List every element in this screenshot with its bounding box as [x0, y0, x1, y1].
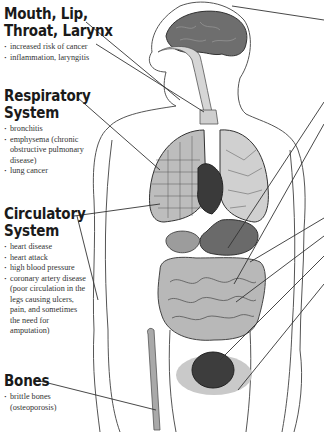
- stomach: [200, 220, 258, 256]
- section-bones: Bones brittle bones (osteoporosis): [4, 373, 84, 413]
- effect-item: brittle bones (osteoporosis): [4, 392, 84, 413]
- section-heading: Circulatory: [4, 206, 86, 223]
- effect-item: bronchitis: [4, 124, 88, 135]
- right-lung: [220, 130, 268, 222]
- section-respiratory: Respiratory System bronchitis emphysema …: [4, 88, 88, 177]
- effects-list: increased risk of cancer inflammation, l…: [4, 42, 116, 63]
- effects-list: bronchitis emphysema (chronic obstructiv…: [4, 124, 88, 177]
- effect-item: coronary artery disease (poor circulatio…: [4, 274, 86, 337]
- femur-bone: [147, 328, 160, 430]
- effect-item: heart attack: [4, 253, 86, 264]
- airway: [158, 46, 212, 112]
- section-heading: Respiratory: [4, 88, 88, 105]
- effects-list: heart disease heart attack high blood pr…: [4, 242, 86, 337]
- effect-item: lung cancer: [4, 166, 88, 177]
- pointer-circ-upper: [74, 204, 160, 216]
- effect-item: emphysema (chronic obstructive pulmonary…: [4, 135, 88, 167]
- arm-line-left: [105, 140, 120, 432]
- section-heading: Bones: [4, 373, 84, 390]
- liver: [166, 231, 200, 253]
- effect-item: increased risk of cancer: [4, 42, 116, 53]
- section-heading: System: [4, 223, 86, 240]
- pointer-respiratory: [78, 98, 160, 170]
- larynx: [200, 110, 218, 124]
- section-heading: Throat, Larynx: [4, 23, 116, 40]
- inner-left-leg: [169, 330, 176, 432]
- effect-item: heart disease: [4, 242, 86, 253]
- bladder-icon: [192, 352, 234, 388]
- effect-item: inflammation, laryngitis: [4, 53, 116, 64]
- section-mouth: Mouth, Lip, Throat, Larynx increased ris…: [4, 6, 116, 63]
- pointer-right-3: [250, 218, 324, 262]
- section-heading: System: [4, 105, 88, 122]
- heart-icon: [198, 164, 223, 214]
- section-heading: Mouth, Lip,: [4, 6, 116, 23]
- effect-item: high blood pressure: [4, 263, 86, 274]
- effects-list: brittle bones (osteoporosis): [4, 392, 84, 413]
- section-circulatory: Circulatory System heart disease heart a…: [4, 206, 86, 337]
- pointer-brain: [232, 6, 324, 20]
